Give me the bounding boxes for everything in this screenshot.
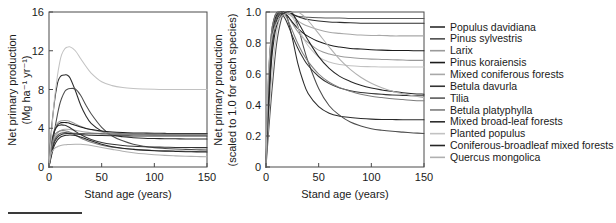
right-x-tick-group: 050100150 (263, 163, 433, 183)
legend-label: Betula platyphylla (450, 104, 532, 116)
right-y-axis-title-line1: Net primary production (212, 34, 224, 145)
x-tick-label: 50 (96, 171, 108, 183)
species-legend: Populus davidianaPinus sylvestrisLarixPi… (430, 21, 613, 163)
x-tick-label: 100 (145, 171, 163, 183)
legend-label: Pinus sylvestris (450, 32, 522, 44)
y-tick-label: 4 (38, 122, 44, 134)
legend-label: Pinus koraiensis (450, 56, 526, 68)
legend-label: Coniferous-broadleaf mixed forests (450, 139, 613, 151)
left-y-axis-title-line2: (Mg ha⁻¹ yr⁻¹) (20, 55, 32, 124)
x-tick-label: 50 (313, 171, 325, 183)
left-panel-group: 0481216 050100150 Stand age (years) Net … (6, 6, 216, 200)
y-tick-label: 1.0 (246, 6, 261, 18)
series-line (49, 125, 207, 167)
y-tick-label: 8 (38, 84, 44, 96)
caption-rule (8, 212, 82, 214)
series-line (266, 12, 424, 167)
left-curve-set (49, 47, 207, 167)
right-y-axis-title-line2: (scaled to 1.0 for each species) (226, 14, 238, 167)
x-tick-label: 150 (415, 171, 433, 183)
legend-label: Mixed broad-leaf forests (450, 115, 563, 127)
x-tick-label: 150 (198, 171, 216, 183)
x-tick-label: 0 (263, 171, 269, 183)
legend-label: Planted populus (450, 127, 525, 139)
left-x-tick-group: 050100150 (46, 163, 216, 183)
y-tick-label: 0.2 (246, 130, 261, 142)
legend-label: Tilia (450, 92, 469, 104)
x-tick-label: 100 (362, 171, 380, 183)
y-tick-label: 0.8 (246, 37, 261, 49)
left-y-axis-title-line1: Net primary production (6, 34, 18, 145)
y-tick-label: 0.4 (246, 99, 261, 111)
y-tick-label: 0.6 (246, 68, 261, 80)
y-tick-label: 12 (32, 45, 44, 57)
npp-figure-svg: 0481216 050100150 Stand age (years) Net … (0, 0, 616, 223)
y-tick-label: 0 (255, 161, 261, 173)
x-tick-label: 0 (46, 171, 52, 183)
legend-label: Larix (450, 44, 474, 56)
legend-label: Betula davurla (450, 80, 517, 92)
legend-label: Mixed coniferous forests (450, 68, 564, 80)
y-tick-label: 0 (38, 161, 44, 173)
right-x-axis-title: Stand age (years) (301, 188, 388, 200)
y-tick-label: 16 (32, 6, 44, 18)
series-line (49, 121, 207, 168)
legend-label: Populus davidiana (450, 21, 536, 33)
figure-root: 0481216 050100150 Stand age (years) Net … (0, 0, 616, 223)
legend-label: Quercus mongolica (450, 151, 541, 163)
left-x-axis-title: Stand age (years) (84, 188, 171, 200)
right-panel-group: 00.20.40.60.81.0 050100150 Stand age (ye… (212, 6, 433, 200)
right-curve-set (266, 12, 424, 167)
series-line (49, 88, 207, 167)
